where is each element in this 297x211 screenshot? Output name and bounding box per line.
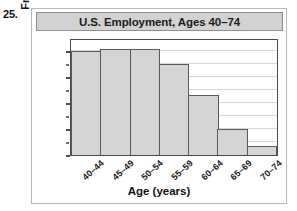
bar: [217, 129, 248, 155]
x-tick-label: 40–44: [80, 158, 105, 182]
bar: [159, 64, 190, 155]
x-tick-label: 60–64: [199, 158, 224, 182]
y-axis-label: Frequency (millions): [19, 0, 31, 15]
y-tick-mark: [66, 116, 69, 117]
plot-area: [70, 39, 278, 156]
x-tick-label: 70–74: [259, 158, 284, 182]
x-axis-label: Age (years): [36, 185, 282, 197]
bar: [247, 146, 278, 155]
problem-number: 25.: [3, 8, 18, 20]
y-tick-mark: [66, 90, 69, 91]
bar: [71, 51, 102, 155]
bar: [130, 49, 161, 155]
x-tick-label: 55–59: [169, 158, 194, 182]
y-tick-mark: [66, 142, 69, 143]
x-tick-label: 45–49: [110, 158, 135, 182]
bar: [100, 49, 131, 155]
bar-series: [71, 40, 277, 155]
chart-title: U.S. Employment, Ages 40–74: [79, 16, 240, 28]
x-tick-label: 50–54: [140, 158, 165, 182]
chart-frame: U.S. Employment, Ages 40–74 Frequency (m…: [31, 8, 287, 204]
chart-title-banner: U.S. Employment, Ages 40–74: [36, 12, 283, 31]
bar: [188, 95, 219, 155]
figure-container: 25. U.S. Employment, Ages 40–74 Frequenc…: [0, 0, 297, 211]
x-tick-label: 65–69: [229, 158, 254, 182]
y-tick-mark: [66, 64, 69, 65]
